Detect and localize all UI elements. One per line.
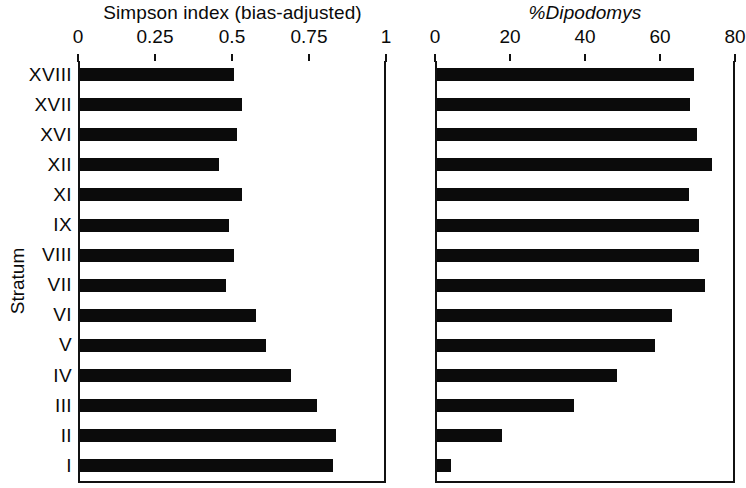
bar [80, 429, 336, 442]
x-tick-label: 0.75 [291, 26, 328, 48]
bar [437, 279, 705, 292]
bar [80, 309, 256, 322]
x-tick-label: 0.25 [137, 26, 174, 48]
panel-title-dipodomys: %Dipodomys [435, 2, 735, 24]
panel-percent-dipodomys: %Dipodomys 020406080 [433, 0, 744, 488]
bar [437, 399, 574, 412]
x-tick-label: 0 [73, 26, 84, 48]
panel-simpson-index: Simpson index (bias-adjusted) 00.250.50.… [0, 0, 390, 488]
x-tick-label: 0.5 [219, 26, 245, 48]
bar [80, 158, 219, 171]
x-axis-tick-labels-simpson: 00.250.50.751 [0, 26, 390, 48]
bar [437, 429, 502, 442]
bar [80, 339, 266, 352]
bar [437, 369, 617, 382]
x-tick-label: 1 [381, 26, 392, 48]
x-axis-tick-labels-dipodomys: 020406080 [433, 26, 744, 48]
bar [80, 279, 226, 292]
bar [437, 128, 697, 141]
panel-title-dipodomys-text: %Dipodomys [529, 2, 642, 23]
bar [437, 188, 689, 201]
bar [80, 68, 234, 81]
bar [437, 459, 451, 472]
bar [437, 309, 672, 322]
bar [437, 219, 699, 232]
bar [80, 249, 234, 262]
bar [80, 219, 229, 232]
bar [80, 188, 242, 201]
bar [437, 158, 712, 171]
bar [80, 399, 317, 412]
x-tick-label: 40 [574, 26, 595, 48]
bar [80, 369, 291, 382]
panel-title-simpson: Simpson index (bias-adjusted) [78, 2, 387, 24]
bar [80, 459, 333, 472]
bar [80, 128, 237, 141]
bar [80, 98, 242, 111]
bar [437, 68, 694, 81]
x-tick-label: 20 [499, 26, 520, 48]
bar [437, 98, 690, 111]
x-tick-label: 0 [430, 26, 441, 48]
x-tick-label: 80 [724, 26, 745, 48]
bars-dipodomys [437, 61, 735, 483]
bar [437, 249, 699, 262]
x-tick-label: 60 [649, 26, 670, 48]
bars-simpson [80, 61, 386, 483]
bar [437, 339, 655, 352]
